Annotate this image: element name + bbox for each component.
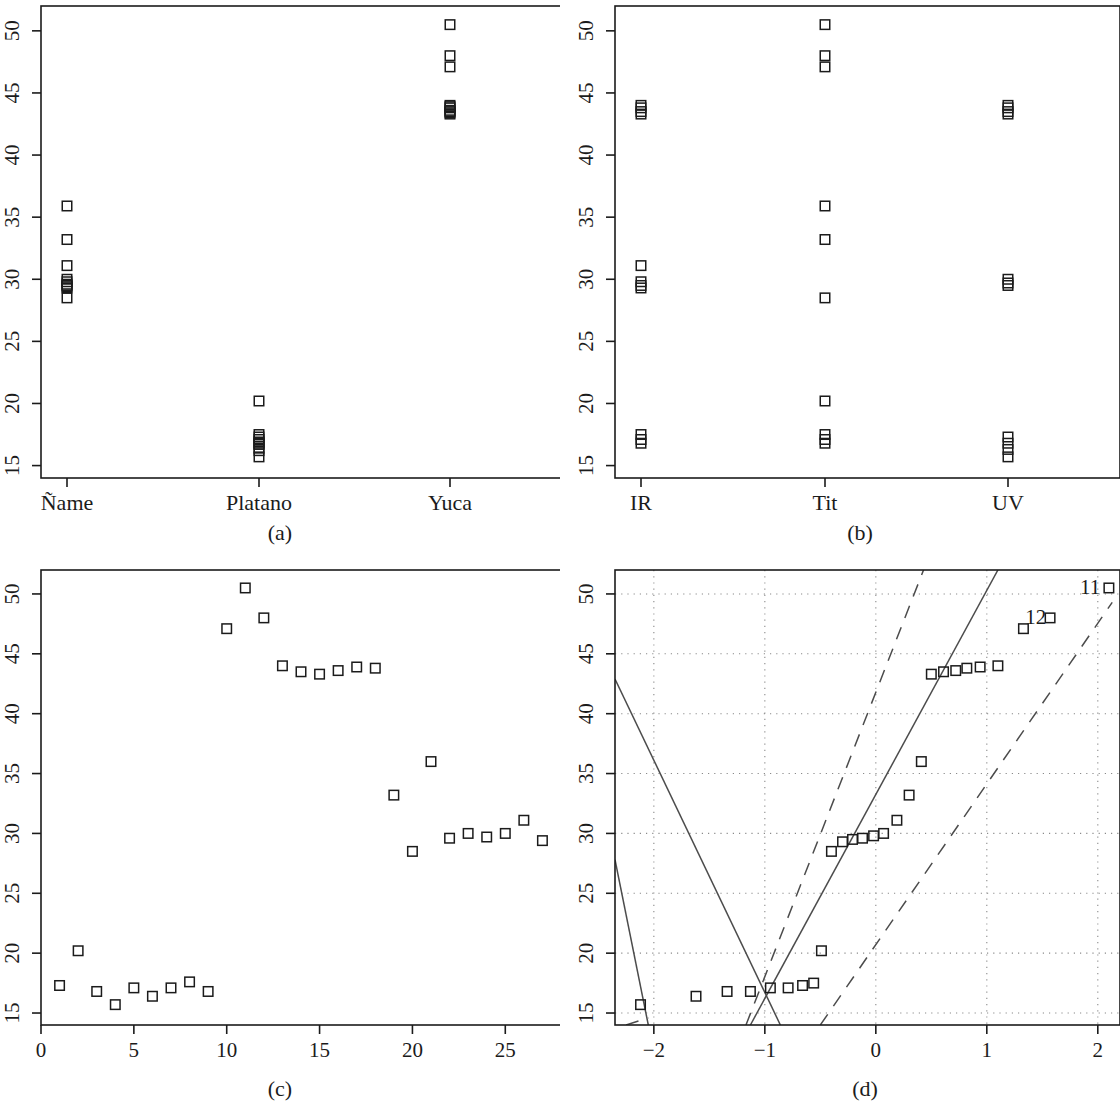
data-marker [927, 669, 937, 679]
x-tick-label-0: 0 [36, 1038, 47, 1062]
panel-b-data-markers [636, 20, 1013, 462]
panel-b-y-axis: 1520253035404550 [574, 20, 615, 476]
data-marker [820, 20, 830, 30]
panel-b-caption: (b) [847, 520, 873, 545]
y-tick-label-20: 20 [0, 943, 24, 964]
data-marker [92, 987, 102, 997]
panel-a-x-axis: ÑamePlatanoYuca [41, 478, 472, 515]
data-marker [722, 987, 732, 997]
panel-d-svg: 1520253035404550 −2−1012 1112 (d) [560, 556, 1120, 1111]
y-tick-label-35: 35 [574, 207, 598, 228]
panel-a-plot-box [41, 6, 560, 478]
data-marker [820, 396, 830, 406]
x-tick-label-5: 5 [129, 1038, 140, 1062]
data-marker [993, 661, 1003, 671]
panel-d-qq-plot: 1520253035404550 −2−1012 1112 (d) [560, 556, 1120, 1111]
panel-a-caption: (a) [268, 520, 292, 545]
y-tick-label-45: 45 [574, 82, 598, 103]
data-marker [1003, 432, 1013, 442]
panel-b-method-scatter: 1520253035404550 IRTitUV (b) [560, 0, 1120, 555]
data-marker [827, 847, 837, 857]
category-label-Yuca: Yuca [428, 490, 472, 515]
qq-band-upper [746, 570, 924, 1025]
y-tick-label-35: 35 [0, 207, 24, 228]
data-marker [55, 981, 65, 991]
data-marker [222, 624, 232, 634]
qq-line-mirror [615, 679, 780, 1025]
data-marker [820, 201, 830, 211]
data-marker [951, 666, 961, 676]
data-marker [820, 235, 830, 245]
data-marker [798, 981, 808, 991]
x-tick-label-25: 25 [495, 1038, 516, 1062]
data-marker [389, 790, 399, 800]
y-tick-label-50: 50 [0, 583, 24, 604]
data-marker [1003, 275, 1013, 285]
x-tick-label-20: 20 [402, 1038, 423, 1062]
data-marker [426, 757, 436, 767]
panel-d-caption: (d) [852, 1076, 878, 1101]
qq-line-main [750, 570, 998, 1025]
y-tick-label-50: 50 [574, 20, 598, 41]
data-marker [892, 816, 902, 826]
x-tick-label-10: 10 [216, 1038, 237, 1062]
panel-d-x-axis: −2−1012 [643, 1025, 1103, 1062]
x-tick-label-2: 2 [1093, 1038, 1104, 1062]
panel-c-data-markers [55, 583, 547, 1009]
data-marker [1045, 613, 1055, 623]
category-label-Tit: Tit [813, 490, 838, 515]
panel-c-x-axis: 0510152025 [36, 1025, 516, 1062]
data-marker [820, 51, 830, 61]
data-marker [148, 992, 158, 1002]
panel-a-svg: 1520253035404550 ÑamePlatanoYuca (a) [0, 0, 560, 555]
qq-band-lower-left [626, 1018, 648, 1025]
point-label-12: 12 [1025, 605, 1046, 629]
data-marker [62, 261, 72, 271]
data-marker [62, 201, 72, 211]
data-marker [185, 977, 195, 987]
data-marker [1003, 103, 1013, 113]
data-marker [1003, 107, 1013, 117]
data-marker [838, 837, 848, 847]
data-marker [820, 62, 830, 72]
data-marker [636, 281, 646, 291]
data-marker [1003, 278, 1013, 288]
y-tick-label-45: 45 [574, 643, 598, 664]
data-marker [636, 283, 646, 293]
data-marker [917, 757, 927, 767]
data-marker [817, 946, 827, 956]
panel-a-data-markers [62, 20, 455, 462]
category-label-Ñame: Ñame [41, 490, 94, 515]
data-marker [62, 293, 72, 303]
data-marker [519, 816, 529, 826]
data-marker [1003, 281, 1013, 291]
y-tick-label-35: 35 [574, 763, 598, 784]
data-marker [166, 983, 176, 993]
data-marker [809, 978, 819, 988]
data-marker [538, 836, 548, 846]
data-marker [636, 103, 646, 113]
x-tick-label-1: 1 [982, 1038, 993, 1062]
panel-b-svg: 1520253035404550 IRTitUV (b) [560, 0, 1120, 555]
data-marker [259, 613, 269, 623]
data-marker [691, 992, 701, 1002]
panel-c-index-scatter: 1520253035404550 0510152025 (c) [0, 556, 560, 1111]
panel-d-gridlines [615, 570, 1120, 1025]
panel-c-caption: (c) [268, 1076, 292, 1101]
data-marker [315, 669, 325, 679]
data-marker [879, 829, 889, 839]
y-tick-label-30: 30 [0, 823, 24, 844]
y-tick-label-15: 15 [574, 1003, 598, 1024]
data-marker [333, 666, 343, 676]
data-marker [408, 847, 418, 857]
x-tick-label-−2: −2 [643, 1038, 665, 1062]
data-marker [62, 235, 72, 245]
category-label-UV: UV [992, 490, 1024, 515]
data-marker [254, 396, 264, 406]
panel-a-y-axis: 1520253035404550 [0, 20, 41, 476]
data-marker [636, 107, 646, 117]
data-marker [501, 829, 511, 839]
data-marker [352, 662, 362, 672]
data-marker [296, 667, 306, 677]
y-tick-label-15: 15 [574, 455, 598, 476]
